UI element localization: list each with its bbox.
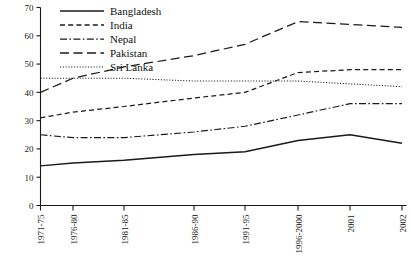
y-tick-label: 60: [25, 31, 35, 41]
x-axis-ticks: 1971-751976-801981-851986-901991-951996-…: [36, 206, 408, 254]
legend-label-pakistan: Pakistan: [110, 47, 147, 59]
legend-swatch-sri-lanka: [60, 61, 104, 73]
series-line-sri-lanka: [41, 78, 403, 86]
y-tick-label: 10: [25, 173, 35, 183]
x-tick-label: 2001: [346, 215, 356, 233]
legend-item-india: India: [60, 18, 205, 32]
legend-item-bangladesh: Bangladesh: [60, 4, 205, 18]
series-line-bangladesh: [41, 135, 403, 166]
y-tick-label: 50: [25, 59, 35, 69]
legend-item-pakistan: Pakistan: [60, 46, 205, 60]
chart-legend: Bangladesh India Nepal Pakistan Sri Lank…: [60, 4, 205, 74]
legend-label-nepal: Nepal: [110, 33, 136, 45]
y-tick-label: 70: [25, 3, 35, 13]
legend-swatch-nepal: [60, 33, 104, 45]
legend-swatch-india: [60, 19, 104, 31]
x-tick-label: 1976-80: [69, 214, 79, 244]
legend-label-india: India: [110, 19, 133, 31]
series-line-india: [41, 70, 403, 118]
y-tick-label: 40: [25, 88, 35, 98]
legend-item-nepal: Nepal: [60, 32, 205, 46]
x-tick-label: 1986-90: [190, 214, 200, 244]
y-axis-ticks: 010203040506070: [25, 3, 41, 211]
series-line-nepal: [41, 104, 403, 138]
legend-label-bangladesh: Bangladesh: [110, 5, 161, 17]
y-tick-label: 30: [25, 116, 35, 126]
legend-item-sri-lanka: Sri Lanka: [60, 60, 205, 74]
chart-container: 010203040506070 1971-751976-801981-85198…: [0, 0, 411, 264]
x-tick-label: 1971-75: [36, 214, 46, 244]
y-tick-label: 20: [25, 144, 35, 154]
legend-swatch-pakistan: [60, 47, 104, 59]
x-tick-label: 1991-95: [241, 214, 251, 244]
x-tick-label: 1996-2000: [294, 214, 304, 253]
legend-label-sri-lanka: Sri Lanka: [110, 61, 153, 73]
x-tick-label: 1981-85: [120, 214, 130, 244]
y-tick-label: 0: [29, 201, 34, 211]
legend-swatch-bangladesh: [60, 5, 104, 17]
x-tick-label: 2002: [398, 215, 408, 233]
